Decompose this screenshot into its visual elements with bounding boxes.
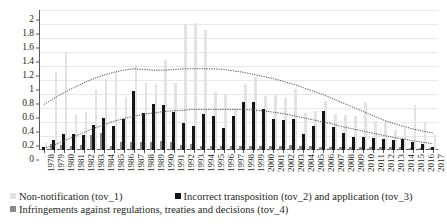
x-axis-tick-mark (263, 150, 264, 153)
chart-legend: Non-notification (tov_1)Incorrect transp… (10, 190, 447, 216)
x-axis-tick-label: 2014 (407, 154, 416, 172)
legend-row: Non-notification (tov_1)Incorrect transp… (10, 190, 447, 203)
x-axis-tick-label: 2008 (347, 154, 356, 172)
x-axis-tick-label: 1998 (247, 154, 256, 172)
y-axis-tick-label: 1.6 (22, 43, 34, 53)
x-axis-tick-mark (353, 150, 354, 153)
y-axis-tick-label: 2 (29, 15, 34, 25)
x-axis-tick-label: 2003 (297, 154, 306, 172)
x-axis-tick-mark (423, 150, 424, 153)
x-axis-tick-label: 2017 (437, 154, 446, 172)
x-axis-tick-mark (234, 150, 235, 153)
x-axis-tick-mark (403, 150, 404, 153)
x-axis-tick-label: 1995 (217, 154, 226, 172)
x-axis-tick-mark (383, 150, 384, 153)
x-axis-tick-label: 2012 (387, 154, 396, 172)
x-axis-tick-mark (74, 150, 75, 153)
x-axis-tick-label: 2001 (277, 154, 286, 172)
x-axis-tick-mark (373, 150, 374, 153)
x-axis-tick-label: 2009 (357, 154, 366, 172)
x-axis-tick-mark (363, 150, 364, 153)
x-axis: 1978197919801981198219831984198519861987… (39, 150, 438, 190)
x-axis-tick-mark (44, 150, 45, 153)
x-axis-tick-mark (84, 150, 85, 153)
x-axis-tick-label: 2007 (337, 154, 346, 172)
x-axis-tick-label: 2006 (327, 154, 336, 172)
x-axis-tick-mark (224, 150, 225, 153)
y-axis-tick-label: 0.6 (22, 113, 34, 123)
legend-swatch-icon (175, 193, 181, 199)
x-axis-tick-mark (313, 150, 314, 153)
x-axis-tick-mark (54, 150, 55, 153)
x-axis-tick-label: 2004 (307, 154, 316, 172)
x-axis-tick-mark (164, 150, 165, 153)
x-axis-tick-mark (253, 150, 254, 153)
x-axis-tick-mark (114, 150, 115, 153)
legend-entry-tov1[interactable]: Non-notification (tov_1) (10, 190, 123, 203)
x-axis-tick-mark (144, 150, 145, 153)
x-axis-tick-mark (323, 150, 324, 153)
legend-label: Incorrect transposition (tov_2) and appl… (184, 191, 413, 202)
x-axis-tick-label: 2015 (417, 154, 426, 172)
legend-entry-tov23[interactable]: Incorrect transposition (tov_2) and appl… (175, 190, 413, 203)
x-axis-tick-mark (303, 150, 304, 153)
trend-upper (44, 69, 433, 133)
y-axis-tick-label: 0.4 (22, 127, 34, 137)
trend-lower (44, 109, 433, 148)
y-axis-tick-label: 0.2 (22, 141, 34, 151)
x-axis-tick-label: 1996 (227, 154, 236, 172)
x-axis-tick-mark (413, 150, 414, 153)
x-axis-tick-mark (243, 150, 244, 153)
x-axis-tick-mark (184, 150, 185, 153)
x-axis-tick-label: 1984 (107, 154, 116, 172)
x-axis-tick-mark (94, 150, 95, 153)
x-axis-tick-label: 1986 (127, 154, 136, 172)
x-axis-tick-mark (283, 150, 284, 153)
x-axis-tick-label: 2013 (397, 154, 406, 172)
legend-row: Infringements against regulations, treat… (10, 203, 447, 216)
x-axis-tick-mark (433, 150, 434, 153)
x-axis-tick-label: 1988 (147, 154, 156, 172)
y-axis-tick-label: 1 (29, 85, 34, 95)
y-axis-tick-label: 1.8 (22, 29, 34, 39)
x-axis-tick-mark (134, 150, 135, 153)
x-axis-tick-mark (393, 150, 394, 153)
x-axis-tick-label: 2010 (367, 154, 376, 172)
x-axis-tick-label: 1997 (237, 154, 246, 172)
legend-label: Non-notification (tov_1) (19, 191, 123, 202)
x-axis-tick-mark (273, 150, 274, 153)
x-axis-tick-label: 2016 (427, 154, 436, 172)
x-axis-tick-label: 2005 (317, 154, 326, 172)
x-axis-tick-label: 1990 (167, 154, 176, 172)
x-axis-tick-mark (204, 150, 205, 153)
x-axis-tick-label: 1992 (187, 154, 196, 172)
chart-figure: 21.81.61.41.210.80.60.40.20 197819791980… (0, 0, 447, 224)
x-axis-tick-mark (293, 150, 294, 153)
x-axis-tick-mark (124, 150, 125, 153)
y-axis-tick-label: 0.8 (22, 99, 34, 109)
y-axis-tick-label: 1.4 (22, 57, 34, 67)
x-axis-tick-label: 1983 (97, 154, 106, 172)
x-axis-tick-mark (343, 150, 344, 153)
x-axis-tick-label: 1989 (157, 154, 166, 172)
x-axis-tick-label: 1985 (117, 154, 126, 172)
x-axis-tick-label: 1999 (257, 154, 266, 172)
x-axis-tick-mark (104, 150, 105, 153)
plot-area (39, 10, 438, 150)
x-axis-tick-label: 2000 (267, 154, 276, 172)
trendline-container (39, 10, 438, 150)
legend-swatch-icon (10, 193, 16, 199)
x-axis-tick-label: 2011 (377, 154, 386, 172)
legend-swatch-icon (10, 206, 16, 212)
x-axis-tick-mark (64, 150, 65, 153)
y-axis-tick-label: 1.2 (22, 71, 34, 81)
x-axis-tick-label: 1987 (137, 154, 146, 172)
legend-label: Infringements against regulations, treat… (19, 204, 288, 215)
x-axis-tick-mark (333, 150, 334, 153)
x-axis-tick-label: 2002 (287, 154, 296, 172)
legend-entry-tov4[interactable]: Infringements against regulations, treat… (10, 203, 288, 216)
x-axis-tick-mark (154, 150, 155, 153)
x-axis-tick-mark (174, 150, 175, 153)
x-axis-tick-mark (214, 150, 215, 153)
x-axis-tick-label: 1991 (177, 154, 186, 172)
